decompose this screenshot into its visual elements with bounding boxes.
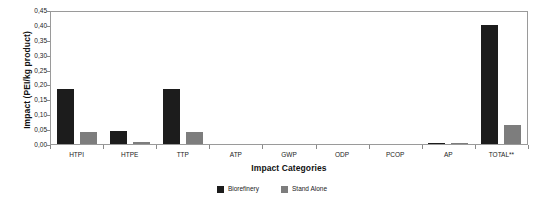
x-axis-tick-label: GWP: [262, 149, 315, 161]
x-axis-title: Impact Categories: [50, 163, 528, 173]
x-axis-tick-labels: HTPIHTPETTPATPGWPODPPCOPAPTOTAL**: [50, 149, 528, 161]
y-axis-tick-label: 0,15: [22, 95, 47, 105]
bar: [481, 25, 498, 144]
bar: [504, 125, 521, 144]
bar: [186, 132, 203, 144]
x-axis-tick-label: TTP: [156, 149, 209, 161]
y-axis-tick-mark: [46, 145, 50, 146]
legend-swatch-icon: [217, 186, 224, 193]
legend-label: Stand Alone: [292, 185, 327, 193]
x-axis-tick-mark: [528, 145, 529, 149]
bars-layer: [51, 12, 527, 144]
x-axis-tick-label: PCOP: [369, 149, 422, 161]
bar: [163, 89, 180, 144]
y-axis-tick-label: 0,40: [22, 21, 47, 31]
bar: [57, 89, 74, 144]
legend-swatch-icon: [281, 186, 288, 193]
category-group: [157, 12, 210, 144]
x-axis-tick-label: ODP: [316, 149, 369, 161]
y-axis-tick-mark: [46, 85, 50, 86]
category-group: [51, 12, 104, 144]
y-axis-tick-mark: [46, 26, 50, 27]
y-axis-tick-mark: [46, 115, 50, 116]
category-group: [210, 12, 263, 144]
bar: [451, 143, 468, 144]
x-axis-tick-label: HTPI: [50, 149, 103, 161]
y-axis-tick-label: 0,30: [22, 51, 47, 61]
y-axis-tick-label: 0,05: [22, 125, 47, 135]
legend-item: Stand Alone: [281, 185, 327, 193]
y-axis-tick-label: 0,25: [22, 66, 47, 76]
category-group: [474, 12, 527, 144]
y-axis-tick-mark: [46, 100, 50, 101]
bar: [428, 143, 445, 144]
y-axis-tick-mark: [46, 11, 50, 12]
chart-legend: BiorefineryStand Alone: [0, 185, 544, 193]
y-axis-tick-mark: [46, 41, 50, 42]
x-axis-tick-label: HTPE: [103, 149, 156, 161]
legend-item: Biorefinery: [217, 185, 259, 193]
y-axis-tick-mark: [46, 130, 50, 131]
y-axis-tick-labels: 0,000,050,100,150,200,250,300,350,400,45: [22, 11, 47, 145]
bar-chart-figure: Impact (PEI/kg product) 0,000,050,100,15…: [0, 0, 544, 205]
category-group: [368, 12, 421, 144]
y-axis-tick-label: 0,20: [22, 80, 47, 90]
y-axis-tick-label: 0,00: [22, 140, 47, 150]
y-axis-tick-mark: [46, 71, 50, 72]
y-axis-tick-label: 0,35: [22, 36, 47, 46]
plot-area: [50, 11, 528, 145]
category-group: [104, 12, 157, 144]
category-group: [263, 12, 316, 144]
bar: [133, 142, 150, 144]
y-axis-tick-label: 0,45: [22, 6, 47, 16]
y-axis-tick-mark: [46, 56, 50, 57]
legend-label: Biorefinery: [228, 185, 259, 193]
bar: [80, 132, 97, 144]
bar: [110, 131, 127, 144]
y-axis-tick-label: 0,10: [22, 110, 47, 120]
category-group: [421, 12, 474, 144]
x-axis-tick-label: TOTAL**: [475, 149, 528, 161]
category-group: [315, 12, 368, 144]
x-axis-tick-label: AP: [422, 149, 475, 161]
x-axis-tick-label: ATP: [209, 149, 262, 161]
